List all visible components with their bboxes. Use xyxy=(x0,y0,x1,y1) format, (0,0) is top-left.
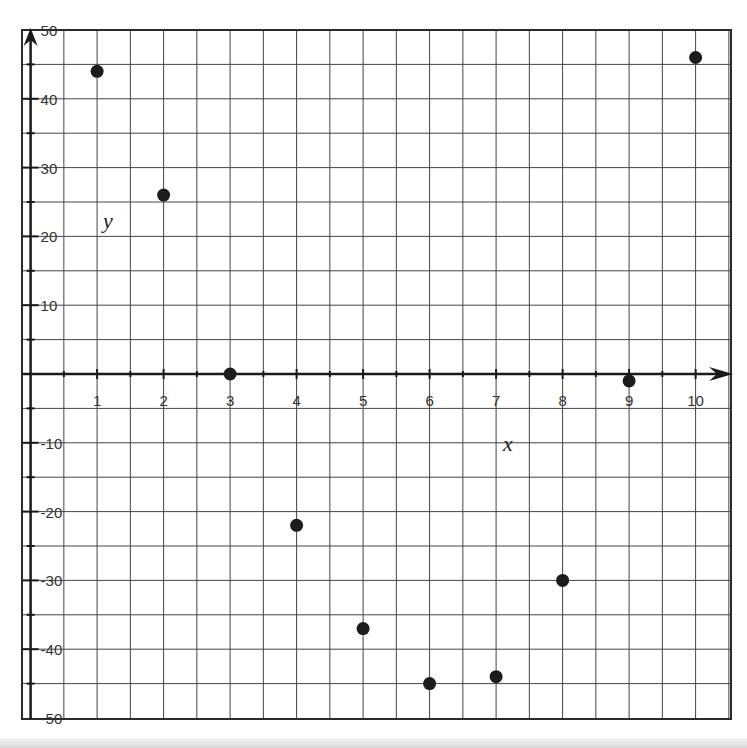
x-axis-label: x xyxy=(502,431,513,456)
data-point xyxy=(556,574,569,587)
data-point xyxy=(689,51,702,64)
y-tick-label: 10 xyxy=(41,297,58,314)
data-point xyxy=(623,374,636,387)
x-tick-label: 9 xyxy=(625,392,633,409)
data-point xyxy=(290,519,303,532)
y-tick-label: 50 xyxy=(41,22,58,39)
data-point xyxy=(224,368,237,381)
data-point xyxy=(423,677,436,690)
x-tick-label: 2 xyxy=(159,392,167,409)
x-tick-label: 1 xyxy=(93,392,101,409)
x-tick-label: 6 xyxy=(425,392,433,409)
x-tick-label: 3 xyxy=(226,392,234,409)
scatter-chart: 123456789105040302010-10-20-30-40-50 x y xyxy=(0,0,747,748)
axes xyxy=(22,28,733,719)
y-tick-label: -40 xyxy=(41,641,63,658)
data-point xyxy=(357,622,370,635)
data-point xyxy=(157,189,170,202)
data-point xyxy=(490,670,503,683)
x-tick-label: 10 xyxy=(687,392,704,409)
y-axis-label: y xyxy=(101,208,113,233)
x-tick-label: 8 xyxy=(558,392,566,409)
y-tick-label: -50 xyxy=(41,710,63,727)
y-tick-label: -20 xyxy=(41,504,63,521)
x-tick-label: 5 xyxy=(359,392,367,409)
y-tick-label: 40 xyxy=(41,91,58,108)
y-tick-label: 20 xyxy=(41,228,58,245)
scan-edge xyxy=(0,738,747,748)
x-tick-label: 4 xyxy=(292,392,300,409)
data-point xyxy=(91,65,104,78)
y-tick-label: 30 xyxy=(41,160,58,177)
x-tick-label: 7 xyxy=(492,392,500,409)
y-tick-label: -30 xyxy=(41,572,63,589)
y-tick-label: -10 xyxy=(41,435,63,452)
